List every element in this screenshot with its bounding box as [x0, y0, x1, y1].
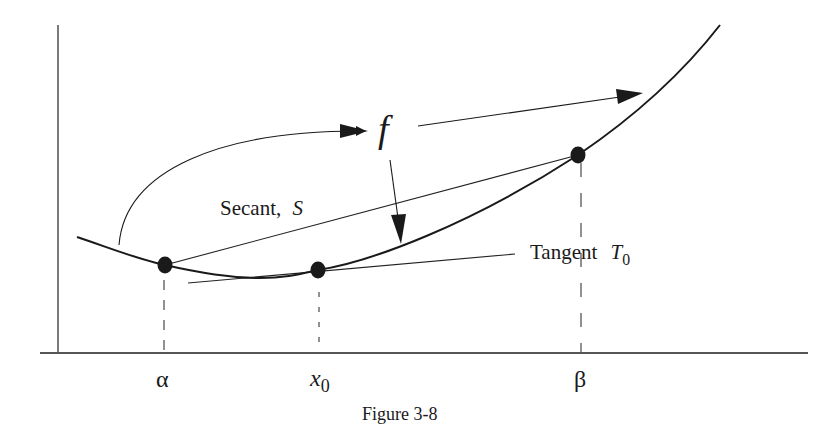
point-beta — [571, 147, 586, 164]
x0-subscript: 0 — [321, 376, 330, 396]
secant-symbol: S — [292, 196, 303, 220]
secant-label: Secant, S — [220, 198, 303, 219]
tangent-symbol: T — [611, 240, 623, 264]
tangent-subscript: 0 — [622, 251, 630, 268]
tangent-text: Tangent — [530, 240, 597, 264]
function-curve — [77, 25, 720, 278]
tangent-label: Tangent T0 — [530, 242, 630, 267]
arrow-f-down — [390, 160, 398, 218]
alpha-label: α — [156, 367, 169, 391]
curved-arrow-to-f — [119, 131, 365, 245]
arrow-f-to-curve-right — [418, 97, 620, 126]
arrowhead-icon — [391, 214, 406, 244]
arrowhead-icon — [616, 89, 643, 104]
point-alpha — [158, 257, 173, 274]
diagram-canvas — [0, 0, 823, 443]
x0-label: x0 — [310, 366, 330, 395]
arrowhead-icon — [340, 124, 368, 138]
function-label: f — [378, 110, 389, 148]
secant-text: Secant, — [220, 196, 281, 220]
tangent-line — [188, 254, 515, 283]
point-x0 — [311, 262, 326, 279]
beta-label: β — [574, 367, 586, 391]
x0-base: x — [310, 365, 321, 391]
figure-caption: Figure 3-8 — [362, 405, 438, 423]
